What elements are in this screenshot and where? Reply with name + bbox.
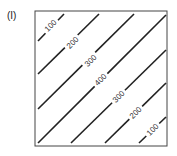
contour-label: 200 [128, 104, 144, 120]
contour-line: 400 [38, 15, 166, 143]
contour-line: 200 [105, 83, 166, 143]
contour-label: 100 [43, 17, 59, 33]
contour-label: 300 [111, 88, 127, 104]
contour-line: 100 [38, 14, 64, 41]
contour-label: 300 [83, 52, 99, 68]
contour-label: 100 [145, 121, 161, 137]
contour-label: 400 [93, 71, 109, 87]
contour-diagram: 100200300400300200100 [0, 0, 177, 156]
contour-label: 200 [65, 34, 81, 50]
contour-line: 100 [139, 117, 166, 143]
